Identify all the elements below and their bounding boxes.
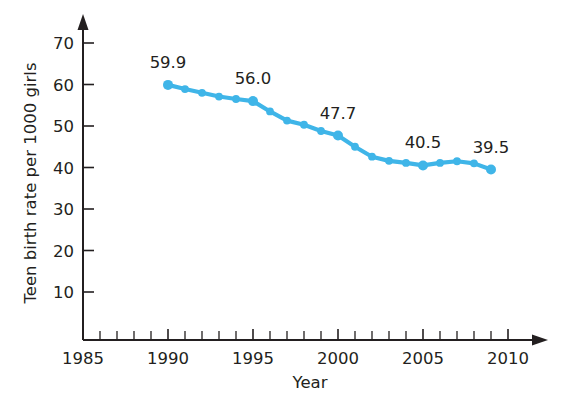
data-point-2008 (470, 159, 478, 167)
point-label-2005: 40.5 (405, 133, 442, 152)
y-tick-label-20: 20 (53, 242, 74, 261)
y-tick-label-70: 70 (53, 34, 74, 53)
x-tick-label-1995: 1995 (232, 349, 274, 368)
data-point-1990 (163, 80, 173, 90)
y-axis-ticks (83, 43, 94, 292)
x-tick-label-2010: 2010 (487, 349, 529, 368)
point-label-1995: 56.0 (235, 69, 272, 88)
data-point-1998 (300, 121, 308, 129)
data-point-2006 (436, 159, 444, 167)
data-point-1991 (181, 85, 189, 93)
data-point-1992 (198, 89, 206, 97)
x-tick-label-2000: 2000 (317, 349, 359, 368)
data-point-1999 (317, 127, 325, 135)
x-tick-label-1990: 1990 (147, 349, 189, 368)
x-tick-label-1985: 1985 (62, 349, 104, 368)
data-point-2007 (453, 157, 461, 165)
data-point-1994 (232, 95, 240, 103)
data-point-2002 (368, 153, 376, 161)
data-point-2004 (402, 159, 410, 167)
data-point-2001 (351, 143, 359, 151)
data-point-2009 (486, 165, 496, 175)
y-axis-tick-labels: 10203040506070 (53, 34, 74, 302)
data-point-2000 (333, 131, 343, 141)
point-label-2009: 39.5 (473, 138, 510, 157)
data-point-1993 (215, 93, 223, 101)
y-tick-label-30: 30 (53, 200, 74, 219)
data-point-1996 (266, 108, 274, 116)
point-label-2000: 47.7 (320, 104, 357, 123)
axes-group (78, 14, 549, 346)
data-point-1997 (283, 117, 291, 125)
data-point-2003 (385, 157, 393, 165)
x-axis-title: Year (292, 373, 328, 392)
data-point-1995 (248, 96, 258, 106)
x-axis-minor-ticks (100, 331, 491, 340)
point-value-labels: 59.956.047.740.539.5 (150, 53, 510, 157)
y-axis-title: Teen birth rate per 1000 girls (21, 63, 40, 305)
data-point-2005 (418, 160, 428, 170)
chart-page: 10203040506070 198519901995200020052010 … (0, 0, 575, 393)
x-axis-major-ticks (83, 329, 508, 340)
x-tick-label-2005: 2005 (402, 349, 444, 368)
teen-birth-rate-line-chart: 10203040506070 198519901995200020052010 … (0, 0, 575, 393)
y-tick-label-50: 50 (53, 117, 74, 136)
y-tick-label-40: 40 (53, 159, 74, 178)
y-tick-label-10: 10 (53, 283, 74, 302)
y-axis-arrow-icon (78, 14, 89, 30)
y-tick-label-60: 60 (53, 76, 74, 95)
x-axis-arrow-icon (532, 335, 548, 346)
point-label-1990: 59.9 (150, 53, 187, 72)
x-axis-tick-labels: 198519901995200020052010 (62, 349, 529, 368)
